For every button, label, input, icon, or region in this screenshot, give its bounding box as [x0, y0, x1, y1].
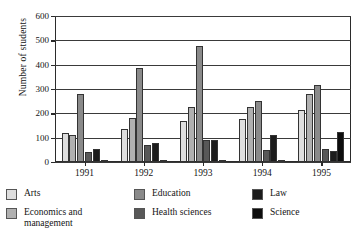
y-axis-tick-label: 100 — [36, 133, 50, 143]
plot-area: 0100200300400500600 — [55, 16, 351, 162]
x-axis-label-1995: 1995 — [292, 168, 351, 178]
bar — [121, 129, 128, 162]
bar — [263, 150, 270, 162]
legend-swatch — [252, 189, 263, 200]
bar — [62, 133, 69, 162]
legend-label: Science — [270, 207, 300, 218]
bar — [298, 110, 305, 162]
bar — [314, 85, 321, 162]
legend-item: Science — [252, 207, 352, 219]
y-axis-tick-label: 200 — [36, 108, 50, 118]
y-axis-tick-label: 400 — [36, 60, 50, 70]
bar-group-1991 — [55, 16, 114, 162]
bar — [270, 135, 277, 162]
bar — [93, 149, 100, 162]
bar — [77, 94, 84, 162]
x-axis-labels: 19911992199319941995 — [55, 168, 351, 178]
bar — [330, 151, 337, 162]
legend-item: Education — [134, 188, 252, 200]
y-axis-tick-label: 0 — [45, 157, 50, 167]
bar-group-1993 — [173, 16, 232, 162]
x-axis-tick-mark — [321, 162, 322, 166]
y-axis-title: Number of students — [18, 0, 28, 122]
legend-label: Law — [270, 188, 287, 199]
bar — [196, 46, 203, 162]
legend-item: Law — [252, 188, 352, 200]
x-axis-label-1994: 1994 — [233, 168, 292, 178]
bar — [247, 107, 254, 162]
x-axis-tick-mark — [85, 162, 86, 166]
legend-column: EducationHealth sciences — [134, 188, 252, 236]
bar — [69, 135, 76, 162]
x-axis-label-1991: 1991 — [55, 168, 114, 178]
legend-label: Health sciences — [152, 207, 211, 218]
bar-group-1994 — [233, 16, 292, 162]
y-axis-tick-label: 300 — [36, 84, 50, 94]
x-axis-label-1993: 1993 — [173, 168, 232, 178]
legend-swatch — [134, 208, 145, 219]
y-axis-tick-label: 600 — [36, 11, 50, 21]
bar-group-1992 — [114, 16, 173, 162]
legend-swatch — [6, 189, 17, 200]
x-axis-label-1992: 1992 — [114, 168, 173, 178]
bar-chart: Number of students 0100200300400500600 1… — [0, 0, 363, 241]
bar — [211, 140, 218, 162]
bar — [203, 140, 210, 162]
bar-groups — [55, 16, 351, 162]
legend-swatch — [6, 208, 17, 219]
bar — [306, 94, 313, 162]
bar — [188, 107, 195, 162]
bar-group-1995 — [292, 16, 351, 162]
bar — [322, 149, 329, 162]
bar — [337, 132, 344, 162]
legend-label: Education — [152, 188, 191, 199]
bar — [129, 118, 136, 162]
bar — [255, 101, 262, 162]
legend-label: Economics and management — [24, 207, 82, 229]
x-axis-tick-mark — [203, 162, 204, 166]
bar — [85, 152, 92, 162]
bar — [144, 145, 151, 162]
x-axis-tick-mark — [144, 162, 145, 166]
x-axis-tick-mark — [262, 162, 263, 166]
bar — [152, 143, 159, 162]
legend-column: ArtsEconomics and management — [6, 188, 134, 236]
legend-swatch — [252, 208, 263, 219]
legend-column: LawScience — [252, 188, 352, 236]
legend-label: Arts — [24, 188, 40, 199]
legend-item: Economics and management — [6, 207, 134, 229]
bar — [180, 121, 187, 162]
legend-swatch — [134, 189, 145, 200]
legend-item: Arts — [6, 188, 134, 200]
y-axis-tick-label: 500 — [36, 35, 50, 45]
bar — [136, 68, 143, 162]
bar — [239, 119, 246, 162]
legend-item: Health sciences — [134, 207, 252, 219]
chart-legend: ArtsEconomics and managementEducationHea… — [6, 188, 358, 236]
